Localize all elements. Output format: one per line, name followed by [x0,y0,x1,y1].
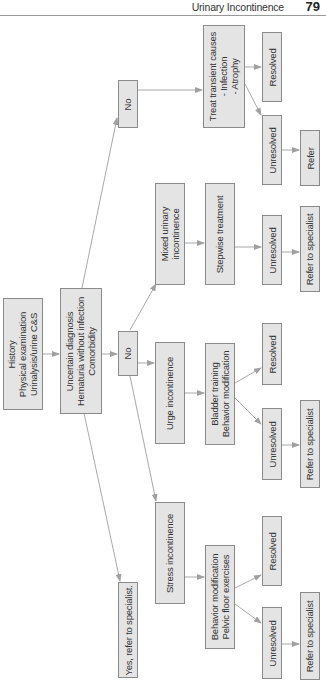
treat-refer-box: Refer [300,130,320,186]
bladder-resolved-label: Resolved [267,335,278,373]
pelvic-resolved-label: Resolved [267,532,278,570]
treat-refer-label: Refer [305,147,316,169]
stepwise-treatment-label: Stepwise treatment [215,195,226,273]
stepwise-unresolved-label: Unresolved [267,227,278,273]
yes-refer-label: Yes, refer to specialist. [123,585,134,675]
treat-transient-label: Treat transient causes - Infection - Atr… [208,32,241,121]
pelvic-unresolved-box: Unresolved [262,607,282,679]
no-box-middle: No [118,331,138,376]
no-label-top: No [123,98,134,110]
treat-transient-box: Treat transient causes - Infection - Atr… [203,25,245,128]
history-label: History Physical examination Urinalysis/… [7,311,40,396]
treat-resolved-box: Resolved [262,32,282,102]
pelvic-unresolved-label: Unresolved [267,620,278,666]
treat-resolved-label: Resolved [267,48,278,86]
treat-unresolved-label: Unresolved [267,127,278,173]
urge-incontinence-label: Urge incontinence [165,356,176,429]
yes-refer-box: Yes, refer to specialist. [118,582,138,678]
bladder-unresolved-label: Unresolved [267,421,278,467]
pelvic-resolved-box: Resolved [262,516,282,586]
stress-incontinence-box: Stress incontinence [155,502,185,604]
stress-incontinence-label: Stress incontinence [165,513,176,592]
mixed-incontinence-box: Mixed urinary incontinence [155,183,185,285]
urge-incontinence-box: Urge incontinence [155,342,185,444]
behavior-pelvic-label: Behavior modification Pelvic floor exerc… [209,554,231,641]
stepwise-unresolved-box: Unresolved [262,215,282,285]
bladder-training-box: Bladder training Behavior modification [205,343,235,445]
bladder-unresolved-box: Unresolved [262,408,282,480]
uncertain-diagnosis-label: Uncertain diagnosis Hematuria without in… [65,296,98,405]
stepwise-treatment-box: Stepwise treatment [205,183,235,285]
treat-unresolved-box: Unresolved [262,115,282,185]
pelvic-refer-box: Refer to specialist [300,592,320,680]
bladder-refer-label: Refer to specialist [305,408,316,480]
stepwise-refer-label: Refer to specialist [305,213,316,285]
no-label-middle: No [123,348,134,360]
no-box-top: No [118,80,138,128]
history-box: History Physical examination Urinalysis/… [3,298,43,410]
pelvic-refer-label: Refer to specialist [305,600,316,672]
bladder-resolved-box: Resolved [262,323,282,385]
uncertain-diagnosis-box: Uncertain diagnosis Hematuria without in… [60,288,102,414]
bladder-training-label: Bladder training Behavior modification [209,351,231,438]
mixed-incontinence-label: Mixed urinary incontinence [159,207,181,261]
stepwise-refer-box: Refer to specialist [300,206,320,292]
behavior-pelvic-box: Behavior modification Pelvic floor exerc… [205,545,235,649]
bladder-refer-box: Refer to specialist [300,400,320,488]
